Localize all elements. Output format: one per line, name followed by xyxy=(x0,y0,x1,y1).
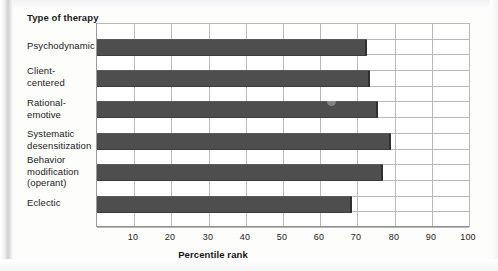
category-label: Systematic desensitization xyxy=(27,128,91,151)
bar xyxy=(97,39,367,56)
category-label: Psychodynamic xyxy=(27,40,95,52)
x-tick-label: 30 xyxy=(195,232,221,242)
page-edge-top xyxy=(0,0,498,10)
bar xyxy=(97,133,391,150)
x-tick-label: 60 xyxy=(306,232,332,242)
x-tick-label: 100 xyxy=(455,232,481,242)
x-tick-label: 40 xyxy=(232,232,258,242)
page-smudge xyxy=(327,97,336,106)
category-label: Client- centered xyxy=(27,65,65,88)
x-tick-label: 90 xyxy=(418,232,444,242)
x-tick-label: 20 xyxy=(157,232,183,242)
x-axis-line xyxy=(97,226,469,227)
x-tick-label: 10 xyxy=(120,232,146,242)
category-label: Eclectic xyxy=(27,197,61,209)
x-tick-label: 50 xyxy=(269,232,295,242)
bar-end-cap xyxy=(389,134,391,149)
page-edge-bottom xyxy=(0,259,498,271)
bar xyxy=(97,196,352,213)
bar-end-cap xyxy=(365,40,367,55)
vertical-gridline xyxy=(395,23,396,227)
bar xyxy=(97,101,378,118)
vertical-gridline xyxy=(469,23,470,227)
category-label: Behavior modification (operant) xyxy=(27,154,79,189)
bar xyxy=(97,164,383,181)
x-axis-title: Percentile rank xyxy=(178,249,248,260)
vertical-gridline xyxy=(432,23,433,227)
x-axis-title-wrap: Percentile rank xyxy=(0,249,498,260)
category-label: Rational- emotive xyxy=(27,97,66,120)
bar-end-cap xyxy=(381,165,383,180)
bar-end-cap xyxy=(350,197,352,212)
plot-area xyxy=(96,23,468,227)
horizontal-gridline xyxy=(97,227,469,228)
bar-end-cap xyxy=(376,102,378,117)
y-axis-title: Type of therapy xyxy=(27,12,99,24)
bar xyxy=(97,70,370,87)
page-edge-left xyxy=(0,0,13,271)
x-tick-label: 70 xyxy=(343,232,369,242)
page-edge-right xyxy=(490,0,498,271)
chart-page: Type of therapy PsychodynamicClient- cen… xyxy=(0,0,498,271)
bar-end-cap xyxy=(368,71,370,86)
x-tick-label: 80 xyxy=(381,232,407,242)
